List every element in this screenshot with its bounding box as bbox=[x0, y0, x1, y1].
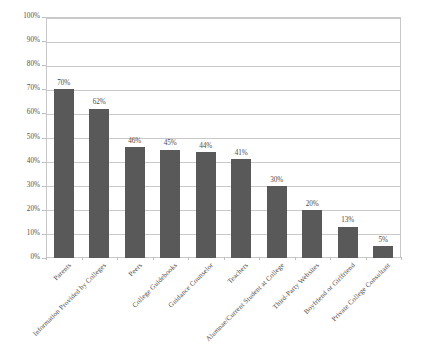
x-axis-tick-mark bbox=[117, 257, 118, 260]
bar bbox=[267, 186, 287, 258]
bar-group: 13% bbox=[330, 17, 366, 258]
bar-group: 30% bbox=[259, 17, 295, 258]
bar bbox=[54, 89, 74, 258]
x-axis-tick-mark bbox=[295, 257, 296, 260]
bar bbox=[89, 109, 109, 258]
bar-group: 46% bbox=[117, 17, 153, 258]
bar-value-label: 44% bbox=[188, 143, 224, 150]
bar-value-label: 45% bbox=[153, 140, 189, 147]
bar-value-label: 46% bbox=[117, 138, 153, 145]
bar-group: 70% bbox=[46, 17, 82, 258]
bars-layer: 70%62%46%45%44%41%30%20%13%5% bbox=[46, 17, 401, 258]
x-axis-tick-mark bbox=[259, 257, 260, 260]
x-axis-labels: ParentsInformation Provided by CollegesP… bbox=[46, 260, 401, 359]
bar bbox=[231, 159, 251, 258]
y-axis-tick-label: 0% bbox=[0, 254, 40, 261]
bar-value-label: 62% bbox=[82, 99, 118, 106]
y-axis-tick-label: 30% bbox=[0, 182, 40, 189]
bar bbox=[373, 246, 393, 258]
bar bbox=[302, 210, 322, 258]
x-axis-tick-mark bbox=[153, 257, 154, 260]
bar bbox=[196, 152, 216, 258]
x-axis-tick-mark bbox=[224, 257, 225, 260]
bar bbox=[160, 150, 180, 258]
y-axis-tick-label: 20% bbox=[0, 206, 40, 213]
bar-value-label: 5% bbox=[366, 237, 402, 244]
bar-chart: 100%90%80%70%60%50%40%30%20%10%0% 70%62%… bbox=[0, 0, 422, 359]
bar-value-label: 13% bbox=[330, 217, 366, 224]
x-axis-category-label: Peers bbox=[127, 262, 143, 278]
bar-value-label: 70% bbox=[46, 80, 82, 87]
bar-value-label: 30% bbox=[259, 177, 295, 184]
x-axis-tick-mark bbox=[188, 257, 189, 260]
bar-group: 5% bbox=[366, 17, 402, 258]
bar-group: 20% bbox=[295, 17, 331, 258]
x-axis-tick-mark bbox=[330, 257, 331, 260]
y-axis-tick-label: 80% bbox=[0, 61, 40, 68]
x-axis-tick-mark bbox=[366, 257, 367, 260]
y-axis-tick-label: 70% bbox=[0, 85, 40, 92]
x-axis-tick-mark bbox=[82, 257, 83, 260]
y-axis-tick-label: 100% bbox=[0, 13, 40, 20]
x-axis-tick-mark bbox=[46, 257, 47, 260]
y-axis-tick-label: 40% bbox=[0, 158, 40, 165]
y-axis-tick-label: 50% bbox=[0, 134, 40, 141]
bar-group: 45% bbox=[153, 17, 189, 258]
x-axis-tick-mark bbox=[401, 257, 402, 260]
x-axis-category-label: Teachers bbox=[227, 262, 250, 285]
bar-group: 44% bbox=[188, 17, 224, 258]
bar-value-label: 41% bbox=[224, 150, 260, 157]
bar bbox=[125, 147, 145, 258]
bar bbox=[338, 227, 358, 258]
bar-group: 41% bbox=[224, 17, 260, 258]
bar-value-label: 20% bbox=[295, 201, 331, 208]
y-axis-tick-label: 60% bbox=[0, 109, 40, 116]
y-axis-tick-label: 90% bbox=[0, 37, 40, 44]
bar-group: 62% bbox=[82, 17, 118, 258]
y-axis-tick-label: 10% bbox=[0, 230, 40, 237]
x-axis-category-label: Parents bbox=[52, 262, 72, 282]
